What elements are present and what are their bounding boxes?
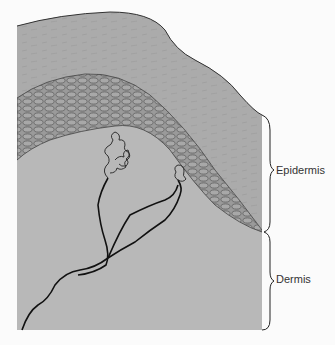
label-dermis: Dermis xyxy=(276,273,311,285)
bracket-epidermis xyxy=(262,115,274,232)
bracket-dermis xyxy=(262,232,274,330)
label-epidermis: Epidermis xyxy=(276,164,325,176)
skin-panel xyxy=(17,10,262,330)
